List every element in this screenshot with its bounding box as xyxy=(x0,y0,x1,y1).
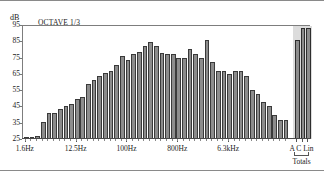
y-axis-tickmark-95 xyxy=(19,25,22,26)
band-bar[interactable] xyxy=(267,106,272,139)
band-bar[interactable] xyxy=(261,102,266,139)
band-bar[interactable] xyxy=(131,54,136,139)
band-bar[interactable] xyxy=(154,46,159,139)
band-bar[interactable] xyxy=(103,73,108,139)
band-bar[interactable] xyxy=(120,56,125,139)
band-bar[interactable] xyxy=(160,53,165,139)
x-axis-minor-tickmark xyxy=(25,139,26,141)
x-axis-minor-tickmark xyxy=(245,139,246,141)
x-axis-minor-tickmark xyxy=(234,139,235,141)
band-bar[interactable] xyxy=(165,54,170,139)
band-bar[interactable] xyxy=(171,54,176,139)
band-bar[interactable] xyxy=(109,71,114,139)
x-axis-minor-tickmark xyxy=(256,139,257,141)
figure-bottom-rule xyxy=(0,170,324,171)
band-bar[interactable] xyxy=(250,90,255,139)
spectrum-bars[interactable] xyxy=(23,26,310,139)
x-axis-minor-tickmark xyxy=(132,139,133,141)
x-axis-tick-label: 800Hz xyxy=(167,144,187,153)
band-bar[interactable] xyxy=(69,104,74,139)
band-bar[interactable] xyxy=(176,58,181,139)
total-bar-c[interactable] xyxy=(301,28,306,139)
totals-bracket xyxy=(294,152,309,156)
x-axis-minor-tickmark xyxy=(155,139,156,141)
x-axis-minor-tickmark xyxy=(53,139,54,141)
band-bar[interactable] xyxy=(143,46,148,139)
band-bar[interactable] xyxy=(126,60,131,139)
band-bar[interactable] xyxy=(188,49,193,139)
x-axis-minor-tickmark xyxy=(115,139,116,141)
band-bar[interactable] xyxy=(92,80,97,139)
x-axis-minor-tickmark xyxy=(98,139,99,141)
x-axis-minor-tickmark xyxy=(183,139,184,141)
band-bar[interactable] xyxy=(233,71,238,139)
y-axis-tick-95: 95 xyxy=(3,21,20,29)
x-axis-minor-tickmark xyxy=(160,139,161,141)
y-axis-tickmark-75 xyxy=(19,58,22,59)
x-axis-minor-tickmark xyxy=(59,139,60,141)
band-bar[interactable] xyxy=(148,42,153,139)
x-axis-minor-tickmark xyxy=(251,139,252,141)
x-axis-tick-label: 100Hz xyxy=(116,144,136,153)
x-axis-minor-tickmark xyxy=(177,139,178,141)
x-axis-minor-tickmark xyxy=(76,139,77,141)
band-bar[interactable] xyxy=(182,58,187,139)
band-bar[interactable] xyxy=(278,120,283,139)
band-bar[interactable] xyxy=(256,94,261,139)
total-bar-lin[interactable] xyxy=(306,28,311,139)
band-bar[interactable] xyxy=(58,109,63,139)
band-bar[interactable] xyxy=(210,62,215,139)
band-bar[interactable] xyxy=(205,40,210,139)
band-bar[interactable] xyxy=(216,71,221,139)
y-axis-tick-45: 45 xyxy=(3,102,20,110)
band-bar[interactable] xyxy=(97,76,102,139)
x-axis-minor-tickmark xyxy=(200,139,201,141)
y-axis-tickmark-25 xyxy=(19,139,22,140)
x-axis-minor-tickmark xyxy=(273,139,274,141)
y-axis-tick-55: 55 xyxy=(3,86,20,94)
band-bar[interactable] xyxy=(137,52,142,139)
band-bar[interactable] xyxy=(80,97,85,139)
y-axis-tickmark-65 xyxy=(19,74,22,75)
band-bar[interactable] xyxy=(199,58,204,139)
x-axis-minor-tickmark xyxy=(194,139,195,141)
x-axis-minor-tickmark xyxy=(228,139,229,141)
band-bar[interactable] xyxy=(227,74,232,139)
x-axis-tick-label: 6.3kHz xyxy=(217,144,239,153)
x-axis-minor-tickmark xyxy=(110,139,111,141)
x-axis-minor-tickmark xyxy=(87,139,88,141)
band-bar[interactable] xyxy=(64,106,69,139)
x-axis-minor-tickmark xyxy=(217,139,218,141)
band-bar[interactable] xyxy=(272,115,277,139)
band-bar[interactable] xyxy=(114,65,119,139)
figure-top-rule xyxy=(0,0,324,1)
band-bar[interactable] xyxy=(284,120,289,139)
x-axis-minor-tickmark xyxy=(166,139,167,141)
band-bar[interactable] xyxy=(239,71,244,139)
band-bar[interactable] xyxy=(52,113,57,139)
total-bar-a[interactable] xyxy=(295,40,300,139)
band-bar[interactable] xyxy=(75,99,80,139)
x-axis-minor-tickmark xyxy=(143,139,144,141)
y-axis-tick-35: 35 xyxy=(3,119,20,127)
band-bar[interactable] xyxy=(222,71,227,139)
y-axis-tickmark-55 xyxy=(19,90,22,91)
spectrum-plot-area[interactable] xyxy=(22,25,310,139)
x-axis-minor-tickmark xyxy=(268,139,269,141)
band-bar[interactable] xyxy=(41,122,46,139)
y-axis-tick-85: 85 xyxy=(3,37,20,45)
y-axis-tick-25: 25 xyxy=(3,135,20,143)
y-axis-tickmark-35 xyxy=(19,123,22,124)
x-axis-minor-tickmark xyxy=(262,139,263,141)
band-bar[interactable] xyxy=(86,84,91,139)
totals-caption: Totals xyxy=(292,157,310,166)
x-axis-minor-tickmark xyxy=(138,139,139,141)
band-bar[interactable] xyxy=(193,54,198,140)
band-bar[interactable] xyxy=(244,76,249,139)
octave-analyzer-screenshot: dB OCTAVE 1/3 9585756555453525 1.6Hz12.5… xyxy=(0,0,324,171)
x-axis-minor-tickmark xyxy=(206,139,207,141)
x-axis-minor-tickmark xyxy=(47,139,48,141)
band-bar[interactable] xyxy=(47,113,52,139)
y-axis-tick-75: 75 xyxy=(3,54,20,62)
totals-tickmark-a xyxy=(296,139,297,142)
